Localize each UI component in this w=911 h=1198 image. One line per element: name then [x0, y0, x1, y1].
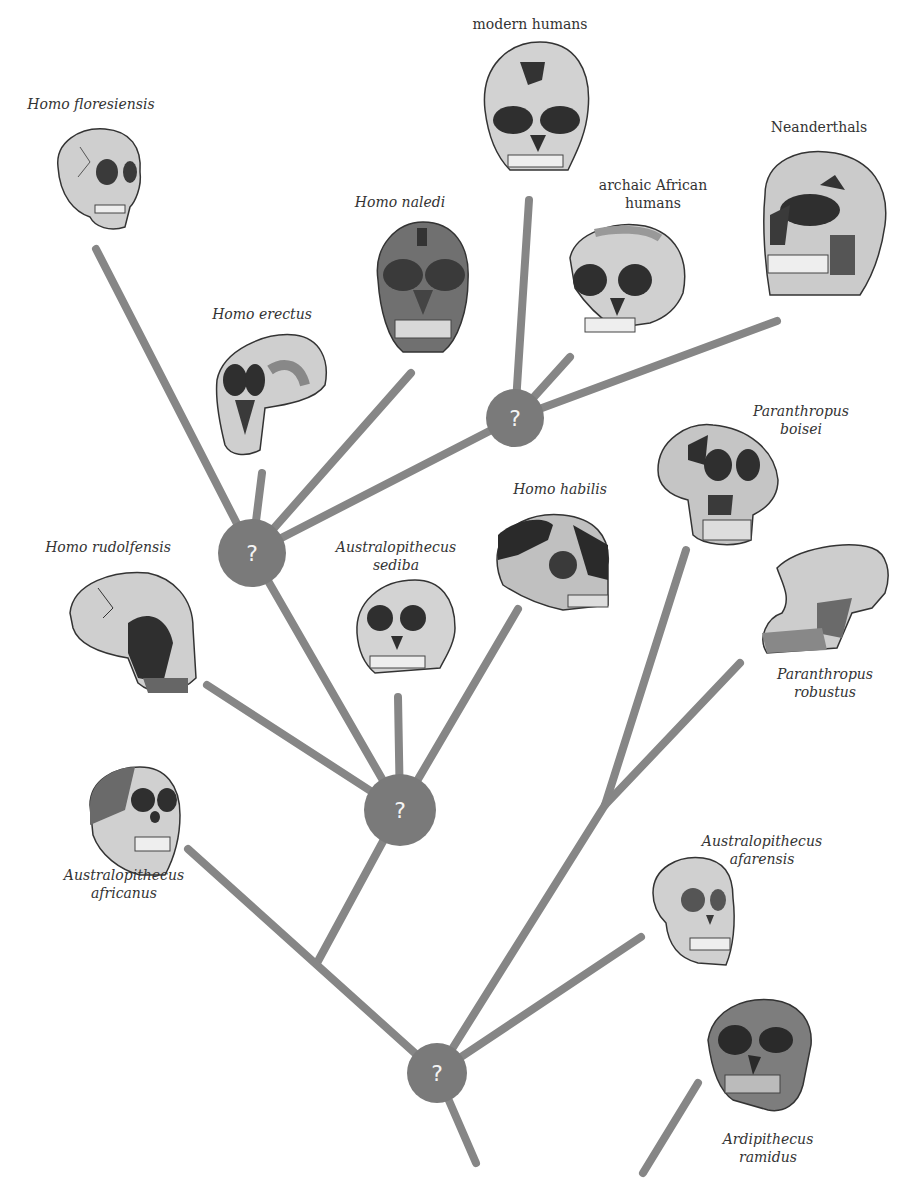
- label-homo-habilis: Homo habilis: [513, 480, 607, 498]
- branch-n1-to-n2: [252, 418, 515, 553]
- phylogenetic-tree: ? ? ? ?: [0, 0, 911, 1198]
- ancestor-nodes: ? ? ? ?: [218, 389, 544, 1103]
- label-ardipithecus-ramidus: Ardipithecus ramidus: [723, 1130, 814, 1166]
- label-homo-floresiensis: Homo floresiensis: [27, 95, 154, 113]
- skull-neanderthals: [764, 152, 886, 295]
- skull-australopithecus-sediba: [357, 580, 455, 673]
- question-mark-icon: ?: [431, 1061, 443, 1086]
- skull-homo-rudolfensis: [70, 573, 196, 693]
- label-homo-erectus: Homo erectus: [212, 305, 312, 323]
- branch-australopithecus-africanus: [188, 849, 437, 1073]
- skull-illustrations: [58, 42, 888, 1111]
- label-paranthropus-boisei: Paranthropus boisei: [753, 402, 849, 438]
- skull-ardipithecus-ramidus: [708, 1000, 811, 1111]
- skull-homo-erectus: [217, 335, 327, 455]
- label-archaic-african-humans: archaic African humans: [599, 176, 707, 212]
- label-homo-naledi: Homo naledi: [355, 193, 445, 211]
- skull-australopithecus-afarensis: [653, 858, 734, 965]
- branch-ardipithecus-ramidus: [643, 1083, 698, 1173]
- skull-homo-habilis: [497, 515, 608, 610]
- label-neanderthals: Neanderthals: [771, 118, 868, 136]
- unknown-ancestor-node-3: ?: [364, 774, 436, 846]
- label-australopithecus-africanus: Australopithecus africanus: [64, 866, 184, 902]
- unknown-ancestor-node-2: ?: [486, 389, 544, 447]
- branch-n4-to-paranthropus: [437, 805, 605, 1073]
- label-australopithecus-afarensis: Australopithecus afarensis: [702, 832, 822, 868]
- skull-paranthropus-boisei: [658, 425, 778, 545]
- skull-modern-humans: [484, 42, 588, 170]
- question-mark-icon: ?: [246, 541, 258, 566]
- label-australopithecus-sediba: Australopithecus sediba: [336, 538, 456, 574]
- unknown-ancestor-node-4: ?: [407, 1043, 467, 1103]
- label-homo-rudolfensis: Homo rudolfensis: [45, 538, 171, 556]
- question-mark-icon: ?: [394, 798, 406, 823]
- skull-paranthropus-robustus: [762, 545, 888, 653]
- skull-homo-floresiensis: [58, 129, 141, 229]
- unknown-ancestor-node-1: ?: [218, 519, 286, 587]
- branch-modern-humans: [515, 200, 529, 418]
- skull-archaic-african-humans: [570, 225, 685, 332]
- branch-australopithecus-afarensis: [437, 937, 641, 1073]
- label-paranthropus-robustus: Paranthropus robustus: [777, 665, 873, 701]
- skull-homo-naledi: [377, 222, 468, 352]
- skull-australopithecus-africanus: [90, 767, 180, 875]
- label-modern-humans: modern humans: [473, 15, 588, 33]
- question-mark-icon: ?: [509, 406, 521, 431]
